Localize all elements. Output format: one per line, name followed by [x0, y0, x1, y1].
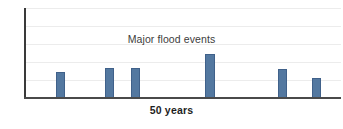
bar-5 [278, 69, 287, 98]
chart-title: Major flood events [0, 33, 343, 45]
bar-4 [205, 54, 215, 98]
y-axis [24, 8, 26, 98]
bar-3 [131, 68, 140, 98]
x-axis-label: 50 years [0, 104, 343, 116]
flood-events-bar-chart: Major flood events 50 years [0, 0, 343, 129]
bar-1 [56, 72, 65, 98]
x-axis [24, 97, 341, 99]
plot-area [25, 8, 341, 98]
bars-layer [25, 8, 341, 98]
bar-6 [312, 78, 321, 98]
bar-2 [105, 68, 114, 98]
